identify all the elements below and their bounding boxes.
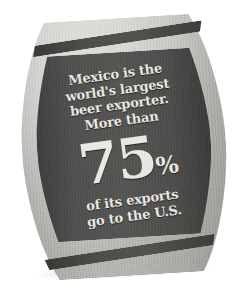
barrel-dark-panel (31, 47, 216, 243)
infographic-canvas: Mexico is the world's largest beer expor… (0, 0, 248, 296)
beer-barrel-graphic: Mexico is the world's largest beer expor… (10, 12, 237, 282)
